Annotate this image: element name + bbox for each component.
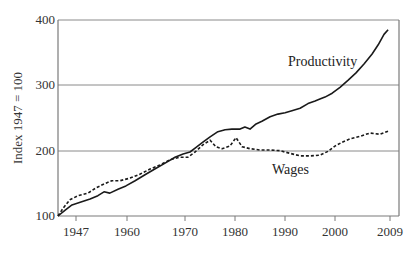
x-tick-1970: 1970 [172,224,198,239]
wages-label: Wages [272,162,309,177]
y-tick-200: 200 [36,143,56,158]
y-tick-100: 100 [36,208,56,223]
y-axis-title: Index 1947 = 100 [10,72,25,164]
x-axis-ticks [76,216,390,221]
x-tick-1947: 1947 [63,224,90,239]
wages-line [58,131,388,216]
x-tick-2009: 2009 [377,224,403,239]
y-axis-tick-labels: 400 300 200 100 [36,12,56,223]
y-tick-400: 400 [36,12,56,27]
x-tick-1980: 1980 [222,224,248,239]
line-chart: 400 300 200 100 1947 1960 1970 1980 1990… [0,0,416,254]
plot-frame [58,20,399,216]
x-axis-tick-labels: 1947 1960 1970 1980 1990 2000 2009 [63,224,403,239]
gridlines [58,20,399,151]
x-tick-2000: 2000 [322,224,348,239]
productivity-label: Productivity [288,54,357,69]
x-tick-1990: 1990 [272,224,298,239]
y-tick-300: 300 [36,77,56,92]
x-tick-1960: 1960 [114,224,140,239]
